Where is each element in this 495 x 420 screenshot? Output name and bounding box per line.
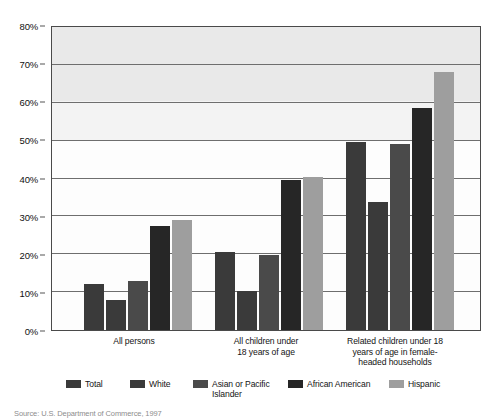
category-label-line: years of age in female- [309, 347, 481, 358]
y-tick-label: 60% [20, 97, 38, 108]
bar [150, 226, 170, 330]
bar [237, 291, 257, 330]
legend-item[interactable]: White [130, 379, 170, 389]
bar-group [215, 27, 327, 330]
bar [172, 220, 192, 330]
legend-label: African American [307, 379, 370, 389]
bar-chart-figure: 0%10%20%30%40%50%60%70%80% All personsAl… [0, 0, 495, 420]
legend-swatch-icon [66, 380, 81, 388]
category-label-line: Related children under 18 [309, 336, 481, 347]
legend-swatch-icon [130, 380, 145, 388]
category-label-line: headed households [309, 357, 481, 368]
chart-legend: TotalWhiteAsian or Pacific IslanderAfric… [0, 379, 495, 405]
bar [390, 144, 410, 330]
y-tick-mark [40, 102, 45, 103]
bar [215, 252, 235, 330]
bar [368, 202, 388, 330]
legend-label: Total [85, 379, 103, 389]
bar [281, 180, 301, 330]
y-tick-mark [40, 292, 45, 293]
bar [128, 281, 148, 330]
y-tick-label: 80% [20, 21, 38, 32]
legend-swatch-icon [193, 380, 208, 388]
y-tick-mark [40, 254, 45, 255]
y-tick-label: 40% [20, 173, 38, 184]
y-tick-mark [40, 64, 45, 65]
category-axis-labels: All personsAll children under18 years of… [51, 336, 481, 378]
legend-item[interactable]: Hispanic [389, 379, 440, 389]
y-tick-label: 50% [20, 135, 38, 146]
category-label: Related children under 18years of age in… [309, 336, 481, 368]
legend-item[interactable]: Asian or Pacific Islander [193, 379, 270, 399]
y-tick-label: 10% [20, 287, 38, 298]
source-note: Source: U.S. Department of Commerce, 199… [14, 409, 162, 418]
bar [84, 284, 104, 330]
plot-area [51, 26, 481, 331]
legend-item[interactable]: African American [288, 379, 370, 389]
y-tick-mark [40, 216, 45, 217]
bar [106, 300, 126, 330]
y-tick-mark [40, 140, 45, 141]
legend-item[interactable]: Total [66, 379, 103, 389]
legend-label: Asian or Pacific Islander [212, 379, 270, 399]
bars-layer [52, 27, 480, 330]
y-tick-label: 70% [20, 59, 38, 70]
category-label: All persons [59, 336, 209, 347]
bar-group [346, 27, 458, 330]
y-tick-mark [40, 331, 45, 332]
bar [259, 255, 279, 330]
legend-label: Hispanic [408, 379, 440, 389]
y-tick-label: 0% [25, 326, 38, 337]
y-axis: 0%10%20%30%40%50%60%70%80% [0, 26, 45, 331]
y-tick-label: 30% [20, 211, 38, 222]
bar-group [84, 27, 196, 330]
y-tick-mark [40, 26, 45, 27]
legend-label: White [149, 379, 170, 389]
bar [434, 72, 454, 330]
y-tick-mark [40, 178, 45, 179]
legend-swatch-icon [389, 380, 404, 388]
bar [346, 142, 366, 330]
bar [303, 177, 323, 330]
legend-swatch-icon [288, 380, 303, 388]
bar [412, 108, 432, 330]
y-tick-label: 20% [20, 249, 38, 260]
category-label-line: All persons [59, 336, 209, 347]
